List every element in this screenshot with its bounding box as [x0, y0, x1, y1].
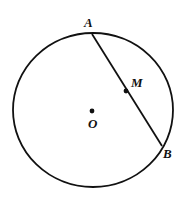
diagram-canvas: A B M O	[0, 0, 187, 198]
label-m: M	[130, 75, 143, 90]
geometry-diagram: A B M O	[0, 0, 187, 198]
point-o-dot	[90, 109, 95, 114]
label-o: O	[88, 116, 98, 131]
label-b: B	[162, 146, 172, 161]
label-a: A	[83, 15, 93, 30]
point-m-dot	[124, 89, 129, 94]
